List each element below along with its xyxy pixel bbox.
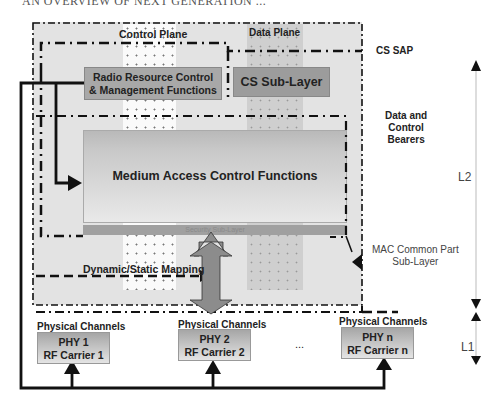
phyn-box: PHY n RF Carrier n xyxy=(341,327,414,359)
cs-sap-label: CS SAP xyxy=(376,45,413,56)
phyn-line2: RF Carrier n xyxy=(342,344,413,357)
bearers-line3: Bearers xyxy=(385,134,427,146)
mac-cps-line2: Sub-Layer xyxy=(372,256,459,268)
mac-cps-label: MAC Common Part Sub-Layer xyxy=(372,244,459,268)
bearers-line2: Control xyxy=(385,122,427,134)
phyn-line1: PHY n xyxy=(342,331,413,344)
mapping-label: Dynamic/Static Mapping xyxy=(83,263,204,275)
l1-label: L1 xyxy=(461,340,474,354)
bearers-label: Data and Control Bearers xyxy=(385,110,427,146)
phy1-channels-label: Physical Channels xyxy=(37,321,125,332)
ellipsis-label: ... xyxy=(295,338,304,350)
phy2-box: PHY 2 RF Carrier 2 xyxy=(178,329,251,361)
phy1-box: PHY 1 RF Carrier 1 xyxy=(37,332,110,364)
mac-cps-line1: MAC Common Part xyxy=(372,244,459,256)
bearers-line1: Data and xyxy=(385,110,427,122)
phy1-line2: RF Carrier 1 xyxy=(38,349,109,362)
phy1-line1: PHY 1 xyxy=(38,336,109,349)
phy2-line2: RF Carrier 2 xyxy=(179,346,250,359)
phyn-channels-label: Physical Channels xyxy=(339,316,427,327)
l2-label: L2 xyxy=(458,170,471,184)
phy2-line1: PHY 2 xyxy=(179,333,250,346)
